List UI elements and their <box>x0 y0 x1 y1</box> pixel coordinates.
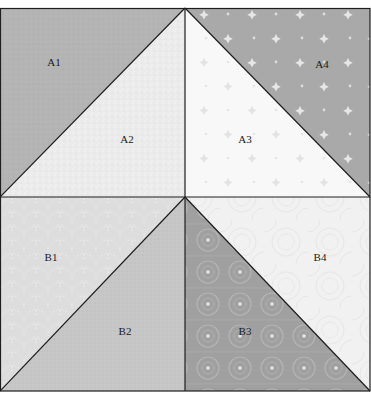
quilt-block-diagram: A1 A2 A3 A4 B1 B2 B3 B4 <box>0 0 371 393</box>
label-b1: B1 <box>45 251 58 263</box>
label-b3: B3 <box>239 325 252 337</box>
label-a2: A2 <box>120 133 133 145</box>
label-b2: B2 <box>119 325 132 337</box>
label-a4: A4 <box>315 58 329 70</box>
label-b4: B4 <box>314 251 327 263</box>
label-a3: A3 <box>238 133 252 145</box>
label-a1: A1 <box>47 56 60 68</box>
